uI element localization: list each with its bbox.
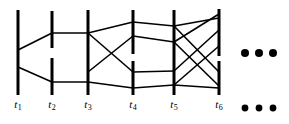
graph-edge: [133, 36, 174, 42]
time-step-label-subscript: 1: [17, 103, 22, 112]
lower-ellipsis-dot-0: [242, 105, 249, 112]
time-step-label-t1: t1: [14, 99, 22, 112]
edges-layer: [18, 14, 219, 88]
graph-edge: [174, 18, 219, 26]
time-step-label-subscript: 3: [87, 103, 92, 112]
graph-canvas: [0, 0, 289, 124]
graph-edge: [18, 67, 52, 82]
node-bars-layer: [18, 9, 219, 95]
upper-ellipsis-dot-1: [255, 49, 263, 57]
time-step-label-t4: t4: [129, 99, 137, 112]
lower-ellipsis-dot-1: [256, 105, 263, 112]
time-step-label-subscript: 6: [218, 103, 223, 112]
time-step-label-subscript: 5: [173, 103, 178, 112]
ellipsis-dots-layer: [241, 49, 277, 111]
graph-edge: [174, 85, 219, 88]
time-step-label-t5: t5: [170, 99, 178, 112]
time-step-label-t6: t6: [215, 99, 223, 112]
upper-ellipsis-dot-2: [269, 49, 277, 57]
time-step-label-t2: t2: [48, 99, 56, 112]
graph-edge: [18, 33, 52, 50]
time-step-label-subscript: 4: [132, 103, 137, 112]
graph-edge: [133, 22, 174, 26]
lower-ellipsis-dot-2: [270, 105, 277, 112]
upper-ellipsis-dot-0: [241, 49, 249, 57]
graph-edge: [174, 14, 219, 42]
graph-edge: [88, 82, 133, 88]
time-expanded-graph-figure: t1t2t3t4t5t6: [0, 0, 289, 124]
time-step-label-t3: t3: [84, 99, 92, 112]
graph-edge: [133, 85, 174, 88]
graph-edge: [88, 22, 133, 33]
graph-edge: [133, 71, 174, 72]
time-step-label-subscript: 2: [51, 103, 56, 112]
